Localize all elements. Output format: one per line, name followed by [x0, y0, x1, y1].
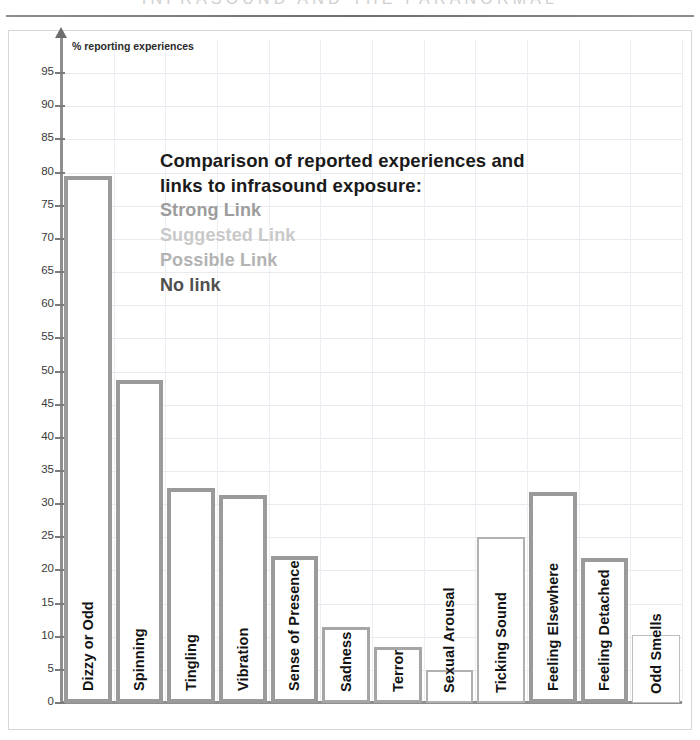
bar-label: Terror	[390, 650, 406, 692]
legend-item-strong-link: Strong Link	[160, 198, 580, 223]
bar-label: Ticking Sound	[493, 592, 509, 693]
bar-feeling-elsewhere: Feeling Elsewhere	[529, 492, 577, 703]
bar-vibration: Vibration	[219, 495, 267, 703]
bar-label: Tingling	[183, 634, 199, 691]
legend-item-suggested-link: Suggested Link	[160, 223, 580, 248]
bar-spinning: Spinning	[116, 380, 164, 703]
bar-sexual-arousal: Sexual Arousal	[426, 670, 474, 703]
bar-sadness: Sadness	[322, 627, 370, 703]
legend-title: Comparison of reported experiences and l…	[160, 148, 580, 198]
bar-label: Sense of Presence	[286, 560, 302, 691]
legend-item-possible-link: Possible Link	[160, 248, 580, 273]
legend-title-line-1: Comparison of reported experiences and	[160, 148, 580, 173]
bar-label: Spinning	[131, 628, 147, 691]
bar-terror: Terror	[374, 647, 422, 703]
bar-odd-smells: Odd Smells	[632, 635, 680, 703]
bar-ticking-sound: Ticking Sound	[477, 537, 525, 703]
bar-label: Feeling Elsewhere	[545, 563, 561, 691]
bar-label: Feeling Detached	[596, 569, 612, 691]
legend-title-line-2: links to infrasound exposure:	[160, 173, 580, 198]
chart-legend: Comparison of reported experiences and l…	[160, 148, 580, 298]
bar-feeling-detached: Feeling Detached	[581, 558, 629, 703]
bar-dizzy-or-odd: Dizzy or Odd	[64, 176, 112, 703]
bar-tingling: Tingling	[167, 488, 215, 703]
bar-label: Sadness	[338, 632, 354, 692]
bar-label: Dizzy or Odd	[80, 601, 96, 691]
legend-item-no-link: No link	[160, 273, 580, 298]
bar-series: Dizzy or OddSpinningTinglingVibrationSen…	[0, 0, 700, 740]
bar-label: Vibration	[235, 628, 251, 691]
bar-label: Sexual Arousal	[441, 587, 457, 693]
bar-sense-of-presence: Sense of Presence	[271, 556, 319, 703]
bar-label: Odd Smells	[648, 613, 664, 694]
